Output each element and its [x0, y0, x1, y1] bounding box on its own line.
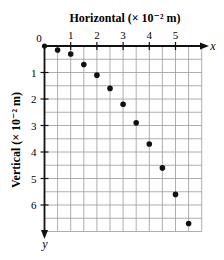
data-point — [107, 86, 113, 92]
x-tick-label: 1 — [68, 29, 74, 41]
x-tick-label: 5 — [173, 29, 179, 41]
x-axis-arrow-icon — [200, 43, 209, 50]
data-point — [120, 102, 126, 108]
grid — [45, 46, 202, 232]
data-point — [81, 62, 87, 68]
data-point — [133, 120, 139, 126]
y-tick-label: 5 — [31, 173, 37, 185]
x-tick-label: 4 — [147, 29, 153, 41]
y-tick-labels: 123456 — [31, 67, 37, 212]
x-axis-variable: x — [209, 39, 216, 53]
data-point — [147, 141, 153, 147]
axes — [41, 42, 210, 239]
data-point — [173, 192, 179, 198]
y-tick-label: 2 — [31, 93, 37, 105]
y-axis-title: Vertical (× 10⁻² m) — [9, 92, 23, 188]
data-point — [68, 51, 74, 57]
data-point — [160, 165, 166, 171]
data-point — [186, 221, 192, 227]
y-tick-label: 3 — [31, 120, 37, 132]
x-tick-label: 2 — [94, 29, 100, 41]
x-axis-title: Horizontal (× 10⁻² m) — [69, 11, 180, 25]
y-tick-label: 6 — [31, 199, 37, 211]
y-tick-label: 1 — [31, 67, 37, 79]
data-point — [55, 47, 61, 53]
origin-label: 0 — [36, 32, 42, 44]
origin-dot — [42, 43, 47, 48]
y-axis-variable: y — [41, 237, 48, 251]
data-point — [94, 72, 100, 78]
y-tick-label: 4 — [31, 146, 37, 158]
x-tick-label: 3 — [120, 29, 126, 41]
chart: Horizontal (× 10⁻² m) Vertical (× 10⁻² m… — [0, 0, 224, 260]
x-tick-labels: 12345 — [68, 29, 179, 41]
